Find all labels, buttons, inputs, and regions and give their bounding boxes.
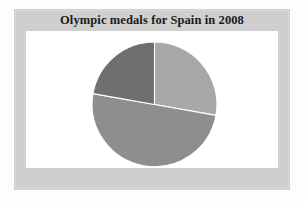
- plot-area: [26, 31, 278, 168]
- chart-title: Olympic medals for Spain in 2008: [14, 10, 290, 31]
- chart-figure: Olympic medals for Spain in 2008: [0, 0, 306, 203]
